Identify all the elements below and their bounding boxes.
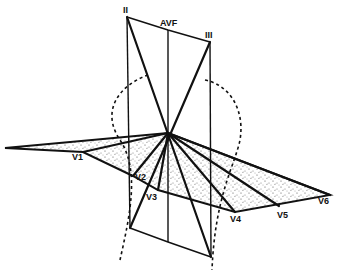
frontal-frame-left <box>127 17 130 228</box>
label-lead-avf: AVF <box>160 18 178 28</box>
label-v6: V6 <box>318 196 329 206</box>
label-lead-iii: III <box>205 30 213 40</box>
label-v2: V2 <box>135 172 146 182</box>
label-v3: V3 <box>146 192 157 202</box>
label-lead-ii: II <box>123 5 128 15</box>
frontal-frame-bottom <box>130 228 211 257</box>
label-v5: V5 <box>277 210 288 220</box>
ecg-lead-diagram: II AVF III V1 V2 V3 V4 V5 V6 <box>0 0 337 275</box>
label-v4: V4 <box>230 214 241 224</box>
label-v1: V1 <box>72 152 83 162</box>
